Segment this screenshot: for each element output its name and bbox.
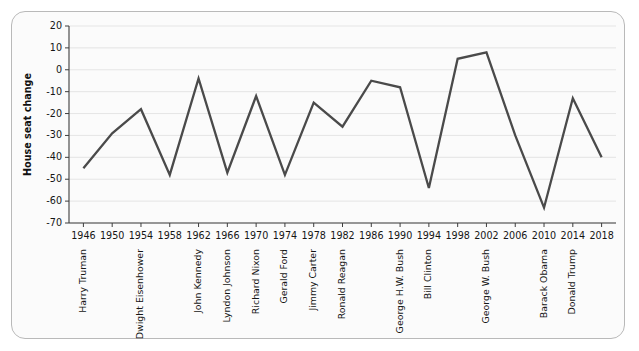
y-tick-label: -10 bbox=[46, 86, 62, 97]
president-label: Harry Truman bbox=[77, 249, 88, 313]
x-tick-label: 2002 bbox=[474, 230, 498, 241]
x-tick-label: 1982 bbox=[330, 230, 354, 241]
x-tick-label: 1998 bbox=[445, 230, 469, 241]
x-tick-label: 1966 bbox=[215, 230, 239, 241]
x-tick-label: 1958 bbox=[158, 230, 182, 241]
x-tick-labels-group: 1946195019541958196219661970197419781982… bbox=[71, 230, 614, 241]
y-tick-label: 0 bbox=[56, 64, 62, 75]
president-label: John Kennedy bbox=[192, 249, 203, 314]
chart-figure: 20100-10-20-30-40-50-60-70 1946195019541… bbox=[11, 11, 625, 339]
y-tick-labels-group: 20100-10-20-30-40-50-60-70 bbox=[46, 20, 62, 228]
president-labels-group: Harry TrumanDwight EisenhowerJohn Kenned… bbox=[77, 249, 577, 340]
y-tick-marks-group bbox=[65, 26, 69, 223]
x-tick-label: 1978 bbox=[301, 230, 325, 241]
y-tick-label: -70 bbox=[46, 217, 62, 228]
x-tick-label: 1962 bbox=[186, 230, 210, 241]
gridlines-group bbox=[69, 26, 616, 223]
x-tick-label: 2014 bbox=[561, 230, 585, 241]
y-tick-label: -60 bbox=[46, 195, 62, 206]
x-tick-label: 1954 bbox=[129, 230, 153, 241]
y-tick-label: -20 bbox=[46, 108, 62, 119]
y-tick-label: -30 bbox=[46, 129, 62, 140]
y-axis-title: House seat change bbox=[22, 73, 33, 176]
x-tick-label: 2010 bbox=[532, 230, 556, 241]
x-tick-label: 1946 bbox=[71, 230, 95, 241]
y-tick-label: 10 bbox=[50, 42, 62, 53]
x-tick-label: 1970 bbox=[244, 230, 268, 241]
president-label: Dwight Eisenhower bbox=[134, 249, 145, 339]
president-label: Ronald Reagan bbox=[336, 249, 347, 319]
x-tick-label: 2006 bbox=[503, 230, 527, 241]
x-tick-label: 2018 bbox=[589, 230, 613, 241]
y-tick-label: 20 bbox=[50, 20, 62, 31]
president-label: George H.W. Bush bbox=[394, 249, 405, 333]
president-label: Jimmy Carter bbox=[307, 249, 318, 312]
x-tick-label: 1974 bbox=[273, 230, 297, 241]
president-label: Donald Trump bbox=[566, 249, 577, 314]
president-label: Bill Clinton bbox=[422, 249, 433, 299]
x-tick-label: 1950 bbox=[100, 230, 124, 241]
x-tick-label: 1994 bbox=[417, 230, 441, 241]
y-tick-label: -50 bbox=[46, 173, 62, 184]
x-tick-marks-group bbox=[83, 223, 601, 227]
president-label: Lyndon Johnson bbox=[221, 249, 232, 322]
president-label: Gerald Ford bbox=[278, 249, 289, 304]
x-tick-label: 1986 bbox=[359, 230, 383, 241]
president-label: George W. Bush bbox=[480, 249, 491, 324]
y-tick-label: -40 bbox=[46, 151, 62, 162]
house-seat-change-series bbox=[83, 52, 601, 207]
house-seat-change-line-chart: 20100-10-20-30-40-50-60-70 1946195019541… bbox=[12, 12, 626, 340]
president-label: Barack Obama bbox=[538, 249, 549, 318]
president-label: Richard Nixon bbox=[250, 249, 261, 314]
x-tick-label: 1990 bbox=[388, 230, 412, 241]
